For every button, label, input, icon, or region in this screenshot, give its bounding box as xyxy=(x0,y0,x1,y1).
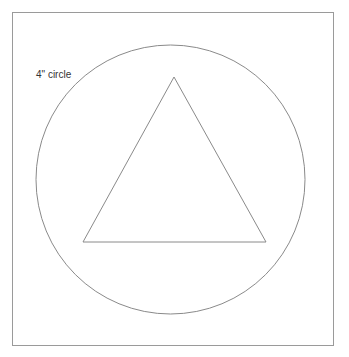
circle-label: 4" circle xyxy=(36,69,71,80)
diagram-canvas xyxy=(0,0,349,357)
circle-shape xyxy=(36,45,305,314)
triangle-shape xyxy=(83,77,266,242)
